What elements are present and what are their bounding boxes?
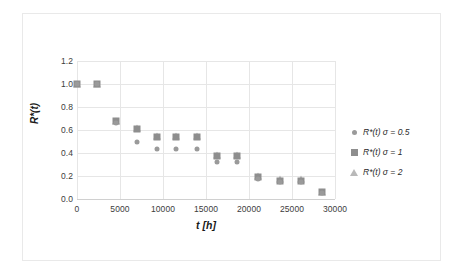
y-axis-title: R*(t) [29,84,40,144]
data-point-square [233,152,240,159]
legend-item[interactable]: R*(t) σ = 2 [350,162,450,182]
data-point-circle [320,191,325,196]
legend-item-label: R*(t) σ = 1 [363,147,402,157]
triangle-marker-icon [350,168,359,177]
legend-item-label: R*(t) σ = 2 [363,167,402,177]
data-point-circle [194,146,199,151]
square-marker-icon [350,148,359,157]
data-point-circle [75,82,80,87]
chart-legend: R*(t) σ = 0.5R*(t) σ = 1R*(t) σ = 2 [350,122,450,182]
data-point-circle [234,160,239,165]
chart-figure: 0.00.20.40.60.81.01.2 050001000015000200… [0,0,463,275]
data-point-circle [173,146,178,151]
data-point-square [193,134,200,141]
data-point-square [172,134,179,141]
legend-item-label: R*(t) σ = 0.5 [363,127,409,137]
data-point-circle [255,177,260,182]
x-axis-title: t [h] [77,219,335,231]
data-point-circle [277,180,282,185]
legend-item[interactable]: R*(t) σ = 1 [350,142,450,162]
circle-marker-icon [350,128,359,137]
data-point-circle [154,146,159,151]
legend-item[interactable]: R*(t) σ = 0.5 [350,122,450,142]
data-point-circle [215,160,220,165]
data-point-circle [135,139,140,144]
data-point-circle [94,82,99,87]
data-point-square [134,125,141,132]
data-point-circle [113,121,118,126]
data-point-square [153,134,160,141]
data-point-circle [298,180,303,185]
data-point-square [214,152,221,159]
